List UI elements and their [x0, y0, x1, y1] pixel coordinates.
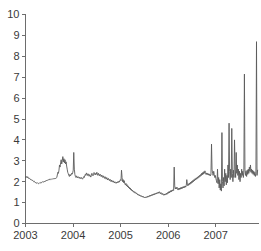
- y-tick-label: 3: [13, 155, 19, 167]
- x-axis: 20032004200520062007: [13, 224, 258, 241]
- chart-container: 012345678910 20032004200520062007: [0, 0, 261, 251]
- x-tick-label: 2004: [61, 229, 85, 241]
- x-tick-label: 2003: [13, 229, 37, 241]
- y-tick-label: 10: [7, 8, 19, 20]
- y-tick-label: 7: [13, 71, 19, 83]
- y-axis: 012345678910: [7, 8, 25, 229]
- line-chart: 012345678910 20032004200520062007: [0, 0, 261, 251]
- y-tick-label: 1: [13, 196, 19, 208]
- y-tick-label: 4: [13, 134, 19, 146]
- y-tick-label: 0: [13, 217, 19, 229]
- x-tick-label: 2006: [156, 229, 180, 241]
- y-tick-label: 9: [13, 29, 19, 41]
- x-tick-label: 2007: [203, 229, 227, 241]
- y-tick-label: 2: [13, 176, 19, 188]
- data-series: [26, 42, 258, 198]
- y-tick-label: 8: [13, 50, 19, 62]
- x-tick-label: 2005: [108, 229, 132, 241]
- series-line-spread: [26, 42, 258, 198]
- y-tick-label: 5: [13, 113, 19, 125]
- y-tick-label: 6: [13, 92, 19, 104]
